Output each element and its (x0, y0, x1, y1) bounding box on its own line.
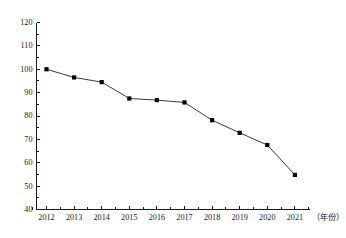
data-point-marker (293, 173, 297, 177)
series-line (47, 69, 295, 175)
x-tick-label: 2019 (232, 213, 248, 222)
data-point-marker (265, 143, 269, 147)
chart-canvas: 405060708090100110120 201220132014201520… (0, 0, 346, 238)
x-tick-label: 2015 (121, 213, 137, 222)
data-point-marker (238, 131, 242, 135)
line-chart: 405060708090100110120 201220132014201520… (0, 0, 346, 238)
data-point-marker (100, 80, 104, 84)
y-axis-tick-labels: 405060708090100110120 (20, 18, 32, 214)
x-tick-label: 2017 (176, 213, 192, 222)
y-tick-label: 100 (20, 65, 32, 74)
data-point-marker (155, 98, 159, 102)
y-tick-label: 70 (24, 135, 32, 144)
x-axis-tick-labels: 2012201320142015201620172018201920202021 (38, 213, 303, 222)
data-point-marker (182, 100, 186, 104)
data-point-marker (44, 67, 48, 71)
x-tick-label: 2021 (287, 213, 303, 222)
y-tick-label: 60 (24, 158, 32, 167)
x-tick-label: 2012 (38, 213, 54, 222)
data-point-marker (72, 75, 76, 79)
data-point-marker (127, 96, 131, 100)
x-axis-title: （年份） (312, 212, 344, 222)
series-markers (44, 67, 297, 177)
y-tick-label: 110 (21, 41, 33, 50)
y-tick-label: 40 (24, 205, 32, 214)
y-axis-major-ticks (37, 23, 41, 210)
x-tick-label: 2014 (94, 213, 110, 222)
x-tick-label: 2013 (66, 213, 82, 222)
y-axis-group: 405060708090100110120 (20, 18, 40, 214)
y-tick-label: 120 (20, 18, 32, 27)
y-tick-label: 80 (24, 111, 32, 120)
data-point-marker (210, 118, 214, 122)
x-axis-group: 2012201320142015201620172018201920202021 (33, 206, 310, 222)
y-tick-label: 90 (24, 88, 32, 97)
x-tick-label: 2020 (259, 213, 275, 222)
plot-area (44, 67, 297, 177)
x-tick-label: 2016 (149, 213, 165, 222)
x-tick-label: 2018 (204, 213, 220, 222)
y-tick-label: 50 (24, 182, 32, 191)
